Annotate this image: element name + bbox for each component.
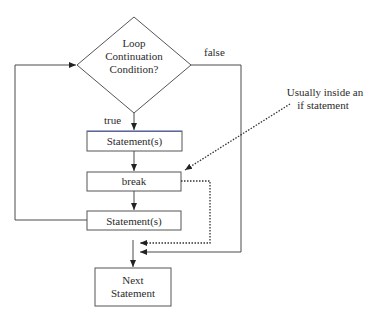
annotation-line-2: if statement <box>297 99 349 111</box>
decision-label-line-1: Loop <box>122 37 146 49</box>
break-label: break <box>122 175 147 187</box>
loop-back-path <box>15 65 87 220</box>
true-label: true <box>104 114 121 126</box>
next-label-line-2: Statement <box>111 287 155 299</box>
loop-break-flowchart: Loop Continuation Condition? false true … <box>0 0 377 320</box>
false-label: false <box>204 46 225 58</box>
decision-label-line-3: Condition? <box>110 63 159 75</box>
next-label-line-1: Next <box>122 274 143 286</box>
annotation-line-1: Usually inside an <box>287 86 364 98</box>
annotation-pointer <box>185 104 290 170</box>
decision-label-line-2: Continuation <box>105 50 163 62</box>
statements-label-1: Statement(s) <box>107 135 163 148</box>
statements-label-2: Statement(s) <box>106 215 162 228</box>
